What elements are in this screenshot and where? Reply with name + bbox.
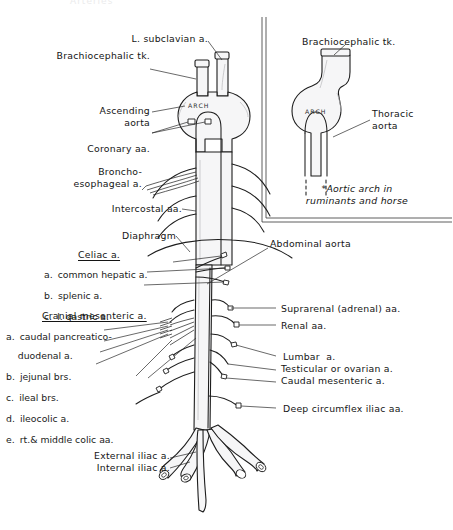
label-l-subclavian-a: L. subclavian a. <box>78 33 208 45</box>
cranial-mesenteric-item: b. jejunal brs. <box>6 365 186 384</box>
label-brachiocephalic-tk: Brachiocephalic tk. <box>28 50 150 62</box>
label-deep-circumflex-iliac-aa: Deep circumflex iliac aa. <box>283 403 404 415</box>
cm-item-label: ileocolic a. <box>20 413 69 424</box>
label-lumbar-a: Lumbar a. <box>283 351 335 363</box>
celiac-item: a. common hepatic a. <box>44 263 214 282</box>
cm-item-key: a. <box>6 331 15 342</box>
label-broncho-esophageal-a: Broncho- esophageal a. <box>32 166 142 189</box>
inset-label-thoracic-aorta: Thoracic aorta <box>372 108 414 131</box>
celiac-item-label: splenic a. <box>58 290 102 301</box>
celiac-heading: Celiac a. <box>78 249 248 261</box>
label-suprarenal-aa: Suprarenal (adrenal) aa. <box>281 303 400 315</box>
label-renal-aa: Renal aa. <box>281 320 327 332</box>
label-ascending-aorta: Ascending aorta <box>52 105 150 128</box>
cm-item-label: ileal brs. <box>19 392 59 403</box>
celiac-item-key: b. <box>44 290 53 301</box>
cranial-mesenteric-group: Cranial mesenteric a. a. caudal pancreat… <box>2 310 182 436</box>
cm-item-key: c. <box>6 392 14 403</box>
cm-item-key: b. <box>6 371 15 382</box>
cranial-mesenteric-item: e. rt.& middle colic aa. <box>6 428 186 447</box>
arch-text-inset: ARCH <box>305 106 327 118</box>
cm-item-label: caudal pancreatico- duodenal a. <box>6 331 112 361</box>
label-caudal-mesenteric-a: Caudal mesenteric a. <box>281 375 385 387</box>
inset-label-brachiocephalic-tk: Brachiocephalic tk. <box>302 36 395 48</box>
label-external-iliac-a: External iliac a. <box>60 450 170 462</box>
label-diaphragm: Diaphragm <box>92 230 176 242</box>
celiac-item: b. splenic a. <box>44 284 214 303</box>
celiac-item-label: common hepatic a. <box>58 269 148 280</box>
inset-vessel <box>292 44 370 196</box>
cm-item-label: jejunal brs. <box>20 371 71 382</box>
cranial-mesenteric-item: d. ileocolic a. <box>6 407 186 426</box>
celiac-group: Celiac a. a. common hepatic a. b. spleni… <box>10 249 180 318</box>
cm-item-key: d. <box>6 413 15 424</box>
cm-item-label: rt.& middle colic aa. <box>20 434 114 445</box>
arch-text-main: ARCH <box>188 100 210 112</box>
cranial-mesenteric-heading: Cranial mesenteric a. <box>42 310 222 322</box>
inset-note: *Aortic arch in ruminants and horse <box>292 183 422 207</box>
label-abdominal-aorta: Abdominal aorta <box>270 238 351 250</box>
label-intercostal-aa: Intercostal aa. <box>56 203 182 215</box>
label-coronary-aa: Coronary aa. <box>48 143 150 155</box>
figure-canvas: Arteries .v { fill:#f6f6f7; stroke:#1d1d… <box>0 0 453 530</box>
cranial-mesenteric-item: a. caudal pancreatico- duodenal a. <box>6 325 186 363</box>
label-internal-iliac-a: Internal iliac a. <box>60 462 170 474</box>
celiac-item-key: a. <box>44 269 53 280</box>
label-testicular-or-ovarian-a: Testicular or ovarian a. <box>281 363 393 375</box>
aortic-arch <box>150 41 250 152</box>
cranial-mesenteric-item: c. ileal brs. <box>6 386 186 405</box>
cm-item-key: e. <box>6 434 15 445</box>
